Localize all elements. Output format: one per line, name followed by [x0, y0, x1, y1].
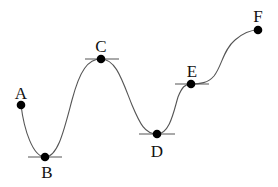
point-label-c: C: [95, 37, 106, 56]
critical-points: [17, 26, 263, 162]
point-label-b: B: [41, 163, 52, 182]
point-label-f: F: [253, 7, 262, 26]
point-f: [254, 26, 263, 35]
point-label-d: D: [151, 142, 163, 161]
curve-diagram: ABCDEF: [0, 0, 278, 187]
point-label-a: A: [15, 84, 28, 103]
function-curve: [21, 30, 258, 157]
point-d: [153, 130, 162, 139]
point-b: [41, 153, 50, 162]
point-labels: ABCDEF: [15, 7, 263, 182]
point-label-e: E: [187, 62, 197, 81]
